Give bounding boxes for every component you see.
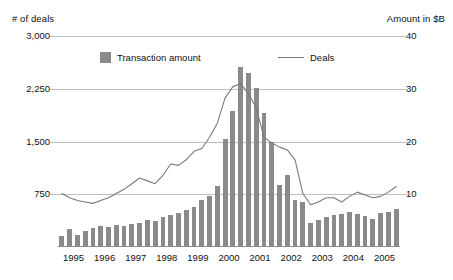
x-tick-label: 2000	[218, 252, 239, 263]
left-tick-label: 3,000	[6, 30, 50, 41]
x-tick-label: 2003	[312, 252, 333, 263]
x-tick-label: 1997	[125, 252, 146, 263]
left-tick-label: 2,250	[6, 83, 50, 94]
line-series-deals	[58, 36, 400, 247]
deals-polyline	[62, 84, 396, 205]
x-axis-tick-labels: 1995199619971998199920002001200220032004…	[58, 252, 400, 274]
x-tick-label: 1996	[94, 252, 115, 263]
left-axis-tick-labels: 7501,5002,2503,000	[4, 0, 50, 280]
left-tick-label: 1,500	[6, 136, 50, 147]
x-tick-label: 1998	[156, 252, 177, 263]
right-tick-label: 30	[406, 83, 446, 94]
right-axis-tick-labels: 10203040	[406, 0, 450, 280]
x-tick-label: 2004	[343, 252, 364, 263]
x-tick-label: 2002	[281, 252, 302, 263]
right-tick-label: 20	[406, 136, 446, 147]
left-tick-label: 750	[6, 188, 50, 199]
right-tick-label: 10	[406, 188, 446, 199]
chart-container: # of deals Amount in $B 7501,5002,2503,0…	[0, 0, 453, 280]
x-tick-label: 1999	[187, 252, 208, 263]
x-tick-label: 2005	[374, 252, 395, 263]
x-tick-label: 2001	[250, 252, 271, 263]
x-tick-label: 1995	[63, 252, 84, 263]
plot-area	[58, 36, 400, 247]
x-axis-baseline	[58, 246, 400, 247]
right-tick-label: 40	[406, 30, 446, 41]
